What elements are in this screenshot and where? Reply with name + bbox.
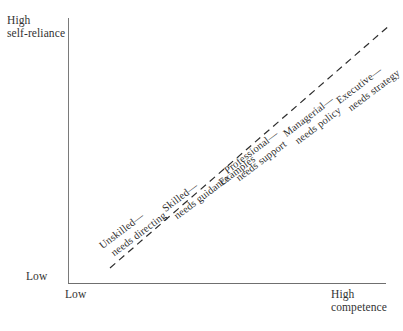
stage-label-managerial: Managerial— needs policy <box>281 94 344 150</box>
x-axis-low-label: Low <box>65 288 86 301</box>
x-axis-high-label-line1: High <box>331 288 354 300</box>
trend-line-layer <box>0 0 403 331</box>
stage-label-professional: Professional— needs support <box>222 128 289 187</box>
trend-line-svg <box>0 0 403 331</box>
stage-label-unskilled: Unskilled— needs directing <box>97 199 169 262</box>
stage-label-skilled: Skilled— needs guidance <box>160 162 232 225</box>
y-axis-low-label: Low <box>26 270 47 283</box>
y-axis-high-label-line2: self-reliance <box>7 27 65 40</box>
x-axis-high-label-line2: competence <box>331 301 387 314</box>
x-axis-line <box>68 283 386 284</box>
y-axis-high-label: High self-reliance <box>7 14 65 40</box>
y-axis-high-label-line1: High <box>7 14 30 26</box>
x-axis-high-label: High competence <box>331 288 387 314</box>
y-axis-line <box>68 18 69 284</box>
figure-canvas: High self-reliance Low Low High competen… <box>0 0 403 331</box>
stage-label-executive: Executive— needs strategy <box>334 57 402 117</box>
